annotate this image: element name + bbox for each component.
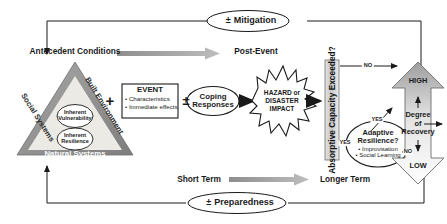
recovery-high-label: HIGH bbox=[409, 77, 427, 85]
no-top-label: NO bbox=[362, 63, 374, 69]
antecedent-conditions-label: Antecedent Conditions bbox=[30, 47, 121, 56]
coping-line2: Responses bbox=[192, 101, 234, 109]
event-box-content: EVENT • Characteristics • Immediate effe… bbox=[125, 86, 178, 111]
adaptive-resilience-label: Adaptive Resilience? • Improvisation • S… bbox=[355, 129, 400, 159]
recovery-line3: Recovery bbox=[401, 128, 434, 137]
diagram-canvas: ±Mitigation ±Preparedness Antecedent Con… bbox=[0, 0, 447, 224]
preparedness-label: ±Preparedness bbox=[206, 198, 274, 207]
inherent-vulnerability-line2: Vulnerability bbox=[58, 116, 91, 122]
mitigation-sign: ± bbox=[226, 15, 231, 25]
yes-adaptive-label: YES bbox=[370, 117, 383, 123]
mitigation-text: Mitigation bbox=[234, 15, 277, 25]
mitigation-label: ±Mitigation bbox=[226, 16, 276, 25]
longer-term-arrow bbox=[229, 174, 309, 186]
preparedness-sign: ± bbox=[206, 197, 211, 207]
post-event-arrow bbox=[117, 48, 220, 60]
hazard-line1: HAZARD or bbox=[264, 89, 300, 97]
event-bullet-1: • Immediate effects bbox=[125, 104, 178, 111]
inherent-vulnerability-label: Inherent Vulnerability bbox=[58, 110, 91, 122]
absorptive-capacity-label: Absorptive Capacity Exceeded? bbox=[328, 46, 337, 174]
short-term-label: Short Term bbox=[177, 175, 221, 184]
triangle-bottom-label: Natural Systems bbox=[44, 150, 105, 158]
degree-of-recovery-label: Degree of Recovery bbox=[401, 111, 434, 137]
inherent-resilience-label: Inherent Resilience bbox=[61, 133, 89, 145]
adaptive-line2: Resilience? bbox=[355, 137, 400, 145]
preparedness-text: Preparedness bbox=[214, 197, 274, 207]
no-adaptive-label: NO bbox=[403, 149, 413, 155]
recovery-low-label: LOW bbox=[409, 162, 426, 170]
post-event-label: Post-Event bbox=[234, 47, 277, 56]
longer-term-label: Longer Term bbox=[320, 175, 370, 184]
coping-responses-label: Coping Responses bbox=[192, 93, 234, 109]
hazard-line2: DISASTER bbox=[264, 97, 300, 105]
event-bullet-0: • Characteristics bbox=[125, 96, 178, 103]
event-title: EVENT bbox=[125, 86, 175, 94]
inherent-resilience-line2: Resilience bbox=[61, 139, 89, 145]
plus-operator: + bbox=[106, 93, 115, 109]
hazard-line3: IMPACT bbox=[264, 105, 300, 113]
hazard-impact-label: HAZARD or DISASTER IMPACT bbox=[264, 89, 300, 114]
yes-bar-label: YES bbox=[338, 140, 351, 146]
plus-minus-operator-1: ± bbox=[182, 94, 189, 108]
adaptive-bullet-1: • Social Learning bbox=[355, 153, 400, 159]
